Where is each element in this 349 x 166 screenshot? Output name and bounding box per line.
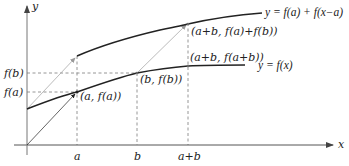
point-ab-fab — [187, 65, 190, 68]
label-a-fa: (a, f(a)) — [80, 90, 121, 103]
x-axis-label: x — [338, 138, 345, 151]
point-a-fa — [76, 91, 79, 94]
curve-lower-f — [27, 65, 245, 109]
label-ab-fa-plus-fb: (a+b, f(a)+f(b)) — [191, 25, 278, 38]
label-b-fb: (b, f(b)) — [140, 73, 182, 86]
curve-label-lower: y = f(x) — [257, 59, 293, 72]
y-tick-fb: f(b) — [3, 67, 24, 80]
label-ab-fab: (a+b, f(a+b)) — [190, 51, 264, 64]
y-tick-fa: f(a) — [3, 86, 23, 99]
point-ab-fa-plus-fb — [187, 23, 190, 26]
x-tick-a-plus-b: a+b — [178, 150, 201, 163]
point-b-fb — [136, 72, 139, 75]
x-tick-b: b — [134, 150, 141, 163]
arrow-b-fb-to-ab — [137, 25, 186, 73]
curve-label-upper: y = f(a) + f(x−a) — [264, 6, 343, 19]
y-axis-label: y — [31, 0, 39, 13]
x-tick-a: a — [74, 150, 81, 163]
diagram-canvas: y x a b a+b f(b) f(a) (a, f(a)) (b, f(b)… — [0, 0, 349, 166]
